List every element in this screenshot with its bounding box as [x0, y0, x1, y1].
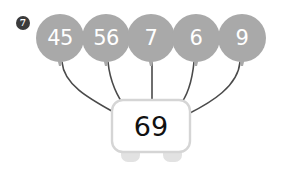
balloon-label: 9	[236, 26, 249, 50]
question-number-badge: 7	[16, 16, 30, 30]
answer-box-label: 69	[134, 111, 168, 142]
balloon-label: 45	[47, 26, 73, 50]
balloon-label: 7	[145, 26, 158, 50]
balloon-label: 56	[93, 26, 119, 50]
balloon-item[interactable]: 56	[82, 14, 130, 66]
balloon-item[interactable]: 6	[172, 14, 220, 66]
worksheet-canvas: 7 45 56 7	[0, 0, 288, 173]
question-badge-label: 7	[20, 18, 26, 28]
balloon-item[interactable]: 9	[218, 14, 266, 66]
balloon-group: 45 56 7 6 9	[36, 14, 266, 66]
string-line	[188, 62, 240, 114]
balloon-item[interactable]: 45	[36, 14, 84, 66]
balloon-bundle-diagram: 7 45 56 7	[0, 0, 288, 173]
balloon-label: 6	[190, 26, 203, 50]
balloon-item[interactable]: 7	[127, 14, 175, 66]
answer-box[interactable]: 69	[112, 100, 190, 152]
